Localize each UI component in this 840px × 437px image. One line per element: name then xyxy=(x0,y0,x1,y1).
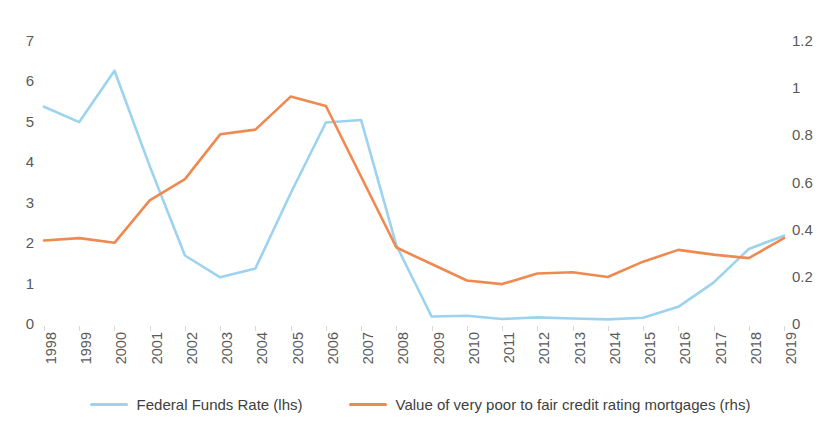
legend-swatch xyxy=(349,403,387,406)
x-axis-tick-label: 2007 xyxy=(361,332,376,364)
y-axis-left-tick: 6 xyxy=(26,73,34,88)
x-axis-tick-mark xyxy=(608,326,609,331)
y-axis-left-tick: 2 xyxy=(26,235,34,250)
legend-label: Value of very poor to fair credit rating… xyxy=(396,396,751,413)
x-axis-tick-label: 2017 xyxy=(714,332,729,364)
x-axis-tick-mark xyxy=(291,326,292,331)
x-axis-tick-mark xyxy=(220,326,221,331)
x-axis-tick-mark xyxy=(784,326,785,331)
x-axis-tick-mark xyxy=(255,326,256,331)
y-axis-right-tick: 0.4 xyxy=(792,221,813,236)
x-axis: 1998199920002001200220032004200520062007… xyxy=(44,326,784,388)
y-axis-right-tick: 0.2 xyxy=(792,268,813,283)
y-axis-right-tick: 1.2 xyxy=(792,33,813,48)
x-axis-tick-mark xyxy=(150,326,151,331)
x-axis-tick-label: 1998 xyxy=(44,332,59,364)
y-axis-left-tick: 0 xyxy=(26,316,34,331)
x-axis-tick-label: 1999 xyxy=(79,332,94,364)
x-axis-tick-label: 2008 xyxy=(396,332,411,364)
y-axis-left-tick: 5 xyxy=(26,113,34,128)
x-axis-tick-mark xyxy=(467,326,468,331)
y-axis-right-tick: 0.8 xyxy=(792,127,813,142)
legend-swatch xyxy=(90,403,128,406)
x-axis-tick-label: 2000 xyxy=(114,332,129,364)
x-axis-tick-mark xyxy=(185,326,186,331)
y-axis-left-tick: 1 xyxy=(26,275,34,290)
y-axis-right-tick: 1 xyxy=(792,80,800,95)
series-line xyxy=(44,71,784,320)
x-axis-tick-mark xyxy=(79,326,80,331)
x-axis-tick-mark xyxy=(396,326,397,331)
plot-area xyxy=(44,40,784,323)
x-axis-tick-label: 2006 xyxy=(326,332,341,364)
x-axis-tick-mark xyxy=(714,326,715,331)
x-axis-tick-label: 2009 xyxy=(432,332,447,364)
series-lines xyxy=(44,40,784,323)
y-axis-left: 01234567 xyxy=(0,40,34,323)
x-axis-tick-label: 2005 xyxy=(291,332,306,364)
x-axis-tick-label: 2012 xyxy=(537,332,552,364)
series-line xyxy=(44,97,784,284)
y-axis-left-tick: 7 xyxy=(26,33,34,48)
x-axis-tick-mark xyxy=(361,326,362,331)
x-axis-tick-label: 2004 xyxy=(255,332,270,364)
x-axis-tick-label: 2018 xyxy=(749,332,764,364)
x-axis-tick-mark xyxy=(432,326,433,331)
legend-item[interactable]: Federal Funds Rate (lhs) xyxy=(90,396,303,413)
x-axis-tick-label: 2013 xyxy=(573,332,588,364)
x-axis-tick-mark xyxy=(44,326,45,331)
x-axis-tick-mark xyxy=(114,326,115,331)
x-axis-tick-label: 2001 xyxy=(150,332,165,364)
x-axis-tick-mark xyxy=(678,326,679,331)
x-axis-tick-label: 2002 xyxy=(185,332,200,364)
x-axis-tick-label: 2003 xyxy=(220,332,235,364)
x-axis-tick-label: 2011 xyxy=(502,332,517,363)
x-axis-tick-mark xyxy=(749,326,750,331)
legend-item[interactable]: Value of very poor to fair credit rating… xyxy=(349,396,751,413)
x-axis-tick-mark xyxy=(573,326,574,331)
y-axis-left-tick: 3 xyxy=(26,194,34,209)
x-axis-tick-label: 2010 xyxy=(467,332,482,364)
y-axis-right-tick: 0 xyxy=(792,316,800,331)
y-axis-right-tick: 0.6 xyxy=(792,174,813,189)
x-axis-tick-mark xyxy=(502,326,503,331)
chart-legend: Federal Funds Rate (lhs)Value of very po… xyxy=(0,396,840,413)
x-axis-tick-label: 2015 xyxy=(643,332,658,364)
x-axis-tick-mark xyxy=(326,326,327,331)
y-axis-right: 00.20.40.60.811.2 xyxy=(792,40,838,323)
x-axis-tick-label: 2019 xyxy=(784,332,799,364)
x-axis-tick-mark xyxy=(537,326,538,331)
y-axis-left-tick: 4 xyxy=(26,154,34,169)
x-axis-tick-label: 2014 xyxy=(608,332,623,364)
chart-container: 01234567 00.20.40.60.811.2 1998199920002… xyxy=(0,0,840,437)
legend-label: Federal Funds Rate (lhs) xyxy=(137,396,303,413)
x-axis-tick-label: 2016 xyxy=(678,332,693,364)
x-axis-tick-mark xyxy=(643,326,644,331)
